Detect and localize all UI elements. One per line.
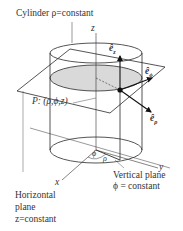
z-axis-label: z: [91, 24, 95, 34]
e-z-label: êz: [109, 44, 116, 55]
e-phi-label: êϕ: [145, 67, 153, 78]
rho-base-line: [96, 150, 120, 160]
e-rho-subscript: ρ: [154, 119, 157, 125]
e-phi-subscript: ϕ: [149, 72, 152, 78]
horizontal-plane-label-1: Horizontal: [15, 191, 56, 201]
x-axis-label: x: [55, 178, 59, 188]
cylinder-label: Cylinder ρ=constant: [16, 9, 93, 19]
vertical-plane-line-lower: [30, 128, 170, 168]
point-leader: [73, 98, 96, 103]
x-axis: [62, 150, 96, 180]
vertical-plane-label-1: Vertical plane: [113, 171, 166, 181]
point-p: [117, 87, 122, 92]
e-rho-label: êρ: [150, 114, 157, 125]
horizontal-plane-label-2: plane: [15, 203, 36, 213]
point-p-label: P: (ρ,ϕ,z): [32, 97, 68, 107]
vertical-plane-label-2: ϕ = constant: [113, 182, 160, 192]
rho-distance-label: ρ: [103, 155, 107, 163]
phi-angle-label: ϕ: [92, 150, 96, 158]
horizontal-plane-label-3: z=constant: [15, 215, 56, 225]
e-z-subscript: z: [113, 49, 115, 55]
